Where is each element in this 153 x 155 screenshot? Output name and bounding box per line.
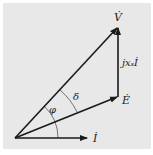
label-v: V̇ [114,11,123,24]
label-i: İ [92,131,98,145]
vector-e [15,97,117,138]
phasor-diagram: V̇ Ė İ jxₛİ φ δ [0,0,153,155]
label-delta: δ [73,91,79,102]
vector-v [15,28,117,138]
label-e: Ė [121,93,130,107]
label-phi: φ [49,104,56,115]
label-jxsi: jxₛİ [120,57,139,68]
phasor-svg: V̇ Ė İ jxₛİ φ δ [0,0,153,155]
